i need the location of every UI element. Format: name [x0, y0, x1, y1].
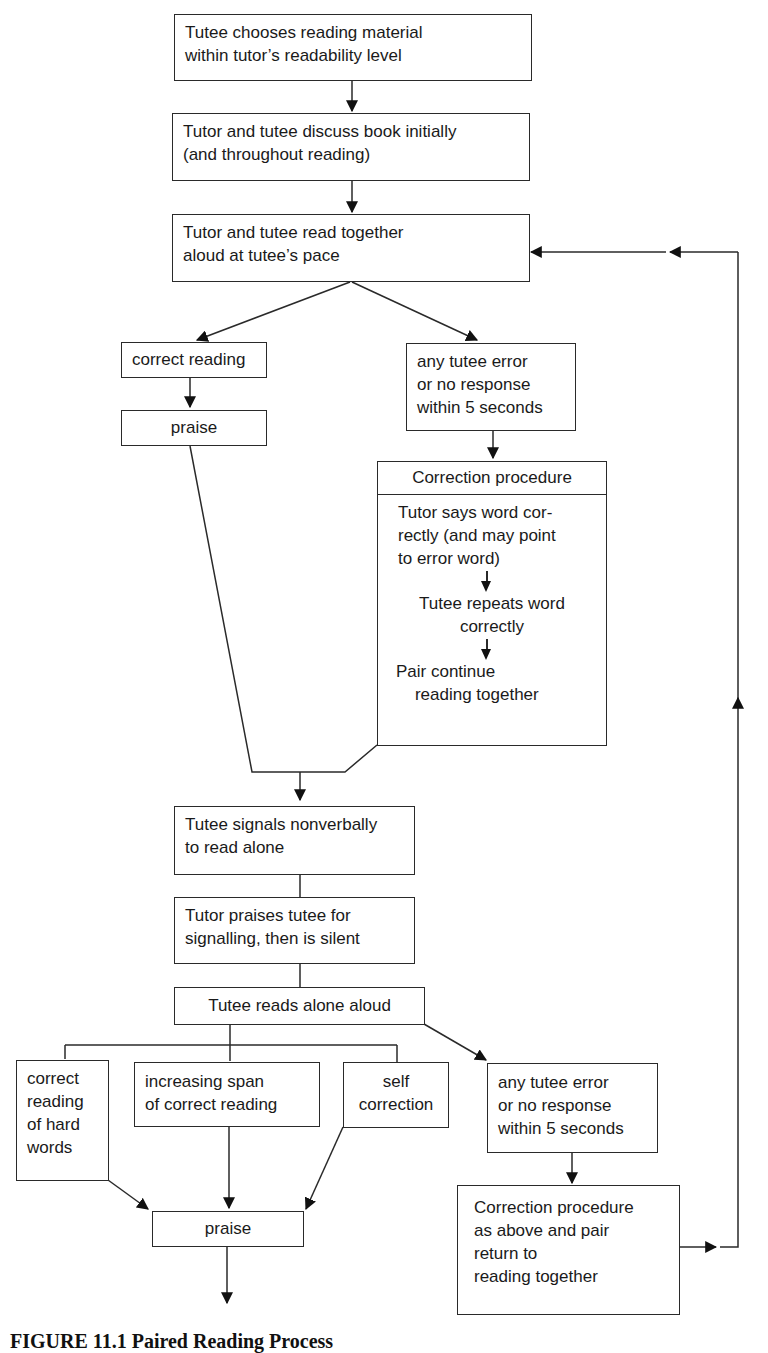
node-discuss-book: Tutor and tutee discuss book initially (…	[172, 113, 530, 181]
node-error-1: any tutee error or no response within 5 …	[406, 343, 576, 431]
correction-step-2: Tutee repeats word correctly	[388, 592, 596, 638]
node-hard-words: correct reading of hard words	[16, 1060, 109, 1181]
node-praise-2: praise	[152, 1211, 304, 1247]
node-self-correction: self correction	[343, 1062, 449, 1128]
node-choose-material: Tutee chooses reading material within tu…	[174, 14, 532, 81]
node-correction-procedure: Correction procedure Tutor says word cor…	[377, 461, 607, 746]
node-signals-alone: Tutee signals nonverbally to read alone	[174, 806, 415, 875]
node-tutor-praises-silent: Tutor praises tutee for signalling, then…	[174, 897, 415, 964]
node-error-2: any tutee error or no response within 5 …	[487, 1063, 658, 1153]
node-reads-alone: Tutee reads alone aloud	[174, 987, 425, 1025]
correction-step-3: Pair continue reading together	[388, 660, 596, 706]
node-correction-return: Correction procedure as above and pair r…	[457, 1185, 680, 1315]
node-correct-reading: correct reading	[121, 342, 267, 378]
node-increasing-span: increasing span of correct reading	[134, 1062, 320, 1127]
node-read-together: Tutor and tutee read together aloud at t…	[172, 214, 530, 282]
correction-step-1: Tutor says word cor- rectly (and may poi…	[388, 501, 596, 570]
arrow-down-icon	[376, 571, 596, 591]
arrow-down-icon	[376, 639, 596, 659]
node-praise-1: praise	[121, 410, 267, 446]
correction-procedure-header: Correction procedure	[378, 462, 606, 495]
figure-caption: FIGURE 11.1 Paired Reading Process	[10, 1330, 333, 1353]
